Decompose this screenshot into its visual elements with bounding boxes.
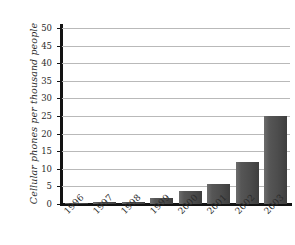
gridline [62, 63, 290, 64]
gridline [62, 28, 290, 29]
y-tick-label: 0 [34, 200, 52, 209]
y-tick-mark [57, 204, 62, 205]
gridline [62, 81, 290, 82]
gridline [62, 98, 290, 99]
y-tick-label: 40 [34, 59, 52, 68]
gridline [62, 151, 290, 152]
y-tick-label: 10 [34, 165, 52, 174]
y-tick-mark [57, 134, 62, 135]
y-tick-label: 50 [34, 24, 52, 33]
gridline [62, 116, 290, 117]
y-tick-label: 30 [34, 94, 52, 103]
y-tick-label: 5 [34, 182, 52, 191]
y-tick-label: 15 [34, 147, 52, 156]
y-tick-mark [57, 151, 62, 152]
y-tick-mark [57, 63, 62, 64]
y-tick-label: 25 [34, 112, 52, 121]
y-tick-mark [57, 81, 62, 82]
y-tick-mark [57, 28, 62, 29]
bar-chart: Cellular phones per thousand people 0510… [0, 0, 295, 245]
y-tick-mark [57, 116, 62, 117]
y-tick-label: 35 [34, 77, 52, 86]
y-tick-mark [57, 98, 62, 99]
y-tick-mark [57, 169, 62, 170]
gridline [62, 134, 290, 135]
y-tick-label: 20 [34, 130, 52, 139]
gridline [62, 46, 290, 47]
y-tick-mark [57, 186, 62, 187]
y-tick-mark [57, 46, 62, 47]
y-tick-label: 45 [34, 42, 52, 51]
